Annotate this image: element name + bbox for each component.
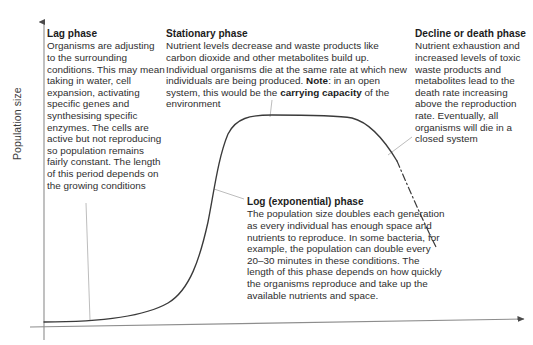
annotation-lag-phase-heading: Lag phase: [47, 28, 165, 40]
leader-line-lag: [86, 203, 90, 320]
annotation-stationary-phase-heading: Stationary phase: [166, 28, 411, 40]
annotation-stationary-phase-body: Nutrient levels decrease and waste produ…: [166, 40, 411, 110]
annotation-decline-phase-body: Nutrient exhaustion and increased levels…: [415, 40, 530, 144]
annotation-log-phase-heading: Log (exponential) phase: [247, 196, 447, 208]
annotation-lag-phase-body: Organisms are adjusting to the surroundi…: [47, 40, 165, 191]
annotation-stationary-phase: Stationary phase Nutrient levels decreas…: [166, 28, 411, 110]
stationary-bold-note: Note: [306, 75, 328, 86]
x-axis: [30, 319, 524, 327]
annotation-log-phase-body: The population size doubles each generat…: [247, 208, 447, 301]
annotation-lag-phase: Lag phase Organisms are adjusting to the…: [47, 28, 165, 191]
stationary-bold-carrying-capacity: carrying capacity: [280, 87, 362, 98]
annotation-decline-phase: Decline or death phase Nutrient exhausti…: [415, 28, 530, 145]
leader-line-log: [214, 189, 244, 199]
y-axis-label: Population size: [11, 40, 23, 160]
annotation-log-phase: Log (exponential) phase The population s…: [247, 196, 447, 301]
growth-curve-diagram: Population size Lag phase Organisms are …: [0, 0, 533, 345]
annotation-decline-phase-heading: Decline or death phase: [415, 28, 530, 40]
